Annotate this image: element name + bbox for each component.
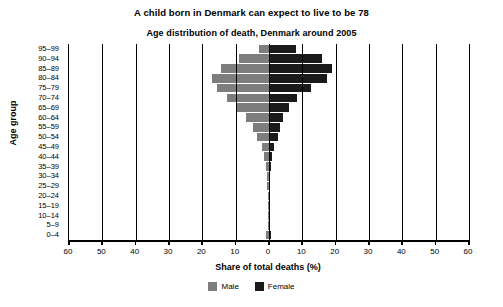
plot-area xyxy=(68,44,469,240)
grid-line xyxy=(202,44,203,240)
y-axis-tick-label: 50–54 xyxy=(38,132,59,142)
x-axis-tick xyxy=(368,240,370,245)
x-axis-tick-label: 30 xyxy=(353,247,383,256)
y-axis-tick-label: 0–4 xyxy=(46,230,59,240)
legend-item-male: Male xyxy=(208,282,238,291)
chart-titles: A child born in Denmark can expect to li… xyxy=(0,0,503,38)
x-axis-tick-label: 10 xyxy=(220,247,250,256)
y-axis-tick-label: 45–49 xyxy=(38,142,59,152)
x-axis-tick xyxy=(335,240,337,245)
grid-line xyxy=(102,44,103,240)
x-axis-tick-label: 20 xyxy=(186,247,216,256)
grid-line xyxy=(369,44,370,240)
x-axis-tick-label: 50 xyxy=(86,247,116,256)
grid-line xyxy=(436,44,437,240)
grid-line xyxy=(336,44,337,240)
bar-male xyxy=(227,94,269,103)
y-axis-tick-label: 20–24 xyxy=(38,191,59,201)
y-axis-tick-label: 25–29 xyxy=(38,181,59,191)
y-axis-tick-label: 90–94 xyxy=(38,54,59,64)
y-axis-tick-label: 55–59 xyxy=(38,122,59,132)
x-axis-tick xyxy=(135,240,137,245)
grid-line xyxy=(402,44,403,240)
x-axis-tick xyxy=(435,240,437,245)
x-axis-tick-label: 60 xyxy=(53,247,83,256)
bar-female xyxy=(269,94,297,103)
grid-line xyxy=(236,44,237,240)
y-axis-tick-label: 5–9 xyxy=(46,220,59,230)
grid-line xyxy=(136,44,137,240)
y-axis-tick-label: 40–44 xyxy=(38,152,59,162)
x-axis-tick xyxy=(268,240,270,245)
x-axis-tick xyxy=(468,240,470,245)
legend-label-male: Male xyxy=(221,282,238,291)
x-axis-tick xyxy=(168,240,170,245)
x-axis-tick xyxy=(101,240,103,245)
bar-male xyxy=(262,143,269,152)
bar-male xyxy=(259,45,269,54)
bar-female xyxy=(269,84,311,93)
legend-swatch-female-icon xyxy=(255,282,264,291)
x-axis-tick-label: 10 xyxy=(286,247,316,256)
x-axis-tick xyxy=(68,240,70,245)
bar-male xyxy=(221,64,269,73)
bar-male xyxy=(257,133,269,142)
bar-female xyxy=(269,54,322,63)
x-axis-tick-label: 50 xyxy=(420,247,450,256)
x-axis-tick-label: 0 xyxy=(253,247,283,256)
chart-legend: Male Female xyxy=(0,282,503,291)
legend-label-female: Female xyxy=(268,282,295,291)
y-axis-tick-label: 85–89 xyxy=(38,64,59,74)
chart-subtitle: Age distribution of death, Denmark aroun… xyxy=(0,28,503,38)
y-axis-tick-label: 65–69 xyxy=(38,103,59,113)
y-axis-tick-label: 80–84 xyxy=(38,73,59,83)
grid-line xyxy=(169,44,170,240)
bar-female xyxy=(269,74,327,83)
x-axis-tick xyxy=(235,240,237,245)
x-axis-tick xyxy=(301,240,303,245)
y-axis-tick-label: 60–64 xyxy=(38,113,59,123)
x-axis-title: Share of total deaths (%) xyxy=(68,262,468,272)
y-axis-labels: 95–9990–9485–8980–8475–7970–7465–6960–64… xyxy=(0,44,64,240)
y-axis-tick-label: 30–34 xyxy=(38,171,59,181)
page-title: A child born in Denmark can expect to li… xyxy=(0,7,503,18)
legend-item-female: Female xyxy=(255,282,295,291)
y-axis-tick-label: 10–14 xyxy=(38,211,59,221)
grid-line xyxy=(469,44,470,240)
y-axis-tick-label: 70–74 xyxy=(38,93,59,103)
bar-male xyxy=(253,123,269,132)
x-axis-tick-label: 30 xyxy=(153,247,183,256)
x-axis-tick xyxy=(201,240,203,245)
y-axis-tick-label: 75–79 xyxy=(38,83,59,93)
y-axis-tick-label: 15–19 xyxy=(38,201,59,211)
bar-female xyxy=(269,64,332,73)
bar-male xyxy=(246,113,269,122)
x-axis-tick xyxy=(401,240,403,245)
legend-swatch-male-icon xyxy=(208,282,217,291)
bar-male xyxy=(236,103,269,112)
bar-male xyxy=(212,74,269,83)
grid-line xyxy=(269,44,270,240)
x-axis-tick-label: 40 xyxy=(120,247,150,256)
bar-male xyxy=(239,54,269,63)
bar-female xyxy=(269,45,296,54)
y-axis-tick-label: 35–39 xyxy=(38,162,59,172)
grid-line xyxy=(302,44,303,240)
x-axis-tick-label: 40 xyxy=(386,247,416,256)
bar-female xyxy=(269,133,278,142)
bar-female xyxy=(269,123,280,132)
x-axis-tick-label: 60 xyxy=(453,247,483,256)
bar-male xyxy=(217,84,269,93)
y-axis-tick-label: 95–99 xyxy=(38,44,59,54)
bar-female xyxy=(269,113,283,122)
x-axis-tick-label: 20 xyxy=(320,247,350,256)
bar-female xyxy=(269,103,289,112)
